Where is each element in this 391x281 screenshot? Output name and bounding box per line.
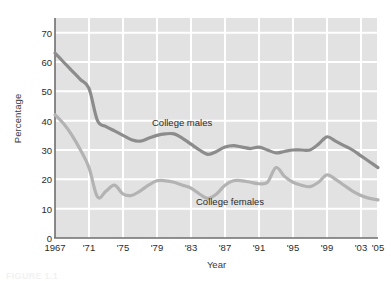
x-tick-label: '83 — [185, 242, 197, 253]
x-tick-label: '03 — [355, 242, 367, 253]
x-tick-label: '71 — [83, 242, 95, 253]
x-tick-label: '87 — [219, 242, 231, 253]
x-tick-label: '75 — [117, 242, 129, 253]
x-tick-label: '99 — [321, 242, 333, 253]
x-tick-label: 1967 — [44, 242, 65, 253]
x-tick-label: '05 — [372, 242, 384, 253]
x-tick-label: '91 — [253, 242, 265, 253]
x-axis-label: Year — [55, 259, 378, 270]
x-tick-label: '95 — [287, 242, 299, 253]
series-label-college-males: College males — [152, 117, 212, 128]
x-axis-ticks: 1967'71'75'79'83'87'91'95'99'03'05 — [0, 0, 391, 281]
x-tick-label: '79 — [151, 242, 163, 253]
figure-caption: FIGURE 1.1 — [6, 271, 58, 281]
y-axis-label: Percentage — [12, 84, 23, 154]
figure-container: 010203040506070 1967'71'75'79'83'87'91'9… — [0, 0, 391, 281]
series-label-college-females: College females — [196, 196, 264, 207]
